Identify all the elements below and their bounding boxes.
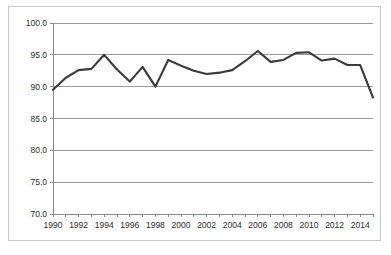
x-axis-tick-label: 1990 [44, 220, 63, 230]
y-axis-labels-group: 100.095.090.085.080.075.070.0 [26, 18, 48, 219]
x-axis-tick-label: 2002 [197, 220, 216, 230]
x-axis-tick-label: 2010 [300, 220, 319, 230]
x-axis-tick-label: 2006 [248, 220, 267, 230]
x-axis-tick-label: 1994 [95, 220, 114, 230]
x-axis-labels-group: 1990199219941996199820002002200420062008… [44, 220, 370, 230]
x-axis-tick-label: 1998 [146, 220, 165, 230]
x-axis-tick-label: 2014 [351, 220, 370, 230]
x-axis-tick-label: 2000 [172, 220, 191, 230]
x-axis-tick-label: 2012 [325, 220, 344, 230]
chart-figure: 100.095.090.085.080.075.070.0 1990199219… [8, 6, 381, 241]
y-axis-tick-label: 95.0 [30, 50, 47, 60]
data-series-line [53, 51, 373, 97]
x-axis-tick-label: 2004 [223, 220, 242, 230]
x-axis-tick-label: 1992 [69, 220, 88, 230]
y-axis-tick-label: 80.0 [30, 145, 47, 155]
y-axis-tick-label: 75.0 [30, 177, 47, 187]
x-axis-tick-label: 2008 [274, 220, 293, 230]
x-axis-tick-label: 1996 [120, 220, 139, 230]
y-axis-tick-label: 70.0 [30, 209, 47, 219]
gridlines-group [53, 23, 373, 182]
y-axis-tick-label: 90.0 [30, 82, 47, 92]
line-chart-plot: 100.095.090.085.080.075.070.0 1990199219… [9, 7, 382, 242]
y-axis-tick-label: 85.0 [30, 114, 47, 124]
y-axis-tick-label: 100.0 [26, 18, 48, 28]
